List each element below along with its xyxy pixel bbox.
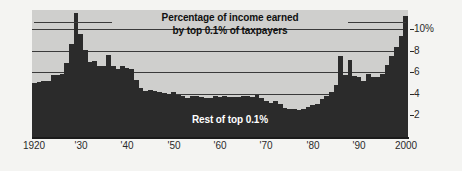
y-tick-label-4: 4 [414,89,420,99]
x-tick-label-1940: '40 [120,140,133,152]
chart-title: Percentage of income earned by top 0.1% … [112,12,348,37]
x-tick-label-1980: '80 [306,140,319,152]
title-leader-line-right [348,22,406,23]
y-tick-label-8: 8 [414,46,420,56]
x-axis-line [32,137,409,139]
y-tick-label-6: 6 [414,67,420,77]
x-tick-label-1950: '50 [167,140,180,152]
title-leader-line-left [34,22,112,23]
x-tick-label-1930: '30 [74,140,87,152]
y-axis: 10%8642 [410,0,462,150]
y-tick-label-2: 2 [414,110,420,120]
x-tick-label-2000: 2000 [395,140,417,152]
x-tick-label-1970: '70 [259,140,272,152]
chart-title-line-1: Percentage of income earned [112,12,348,25]
bar [403,16,408,137]
x-tick-label-1960: '60 [213,140,226,152]
series-inline-label: Rest of top 0.1% [112,114,348,126]
y-tick-label-10: 10% [414,24,434,34]
chart-figure: Percentage of income earned by top 0.1% … [0,0,462,171]
x-axis: 1920'30'40'50'60'70'80'902000 [0,140,462,160]
x-tick-label-1920: 1920 [23,140,45,152]
chart-title-line-2: by top 0.1% of taxpayers [112,25,348,38]
x-tick-label-1990: '90 [352,140,365,152]
